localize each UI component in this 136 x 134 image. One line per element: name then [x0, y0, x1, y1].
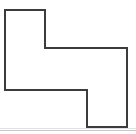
step-polygon-svg: [0, 0, 136, 134]
footer-rule: [0, 130, 136, 131]
footer-faint-rule: [0, 128, 136, 129]
figure-canvas: [0, 0, 136, 134]
